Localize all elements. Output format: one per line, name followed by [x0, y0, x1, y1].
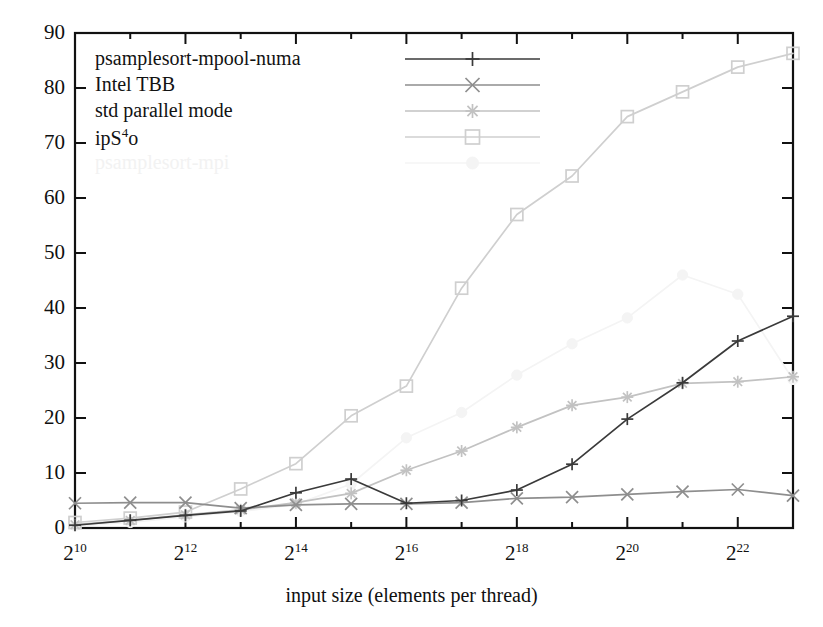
- y-tick-label: 70: [44, 132, 65, 153]
- y-tick-label: 10: [44, 462, 65, 483]
- data-point-marker: [511, 421, 523, 433]
- data-point-marker: [457, 407, 467, 417]
- y-tick-label: 60: [44, 187, 65, 208]
- data-point-marker: [345, 487, 357, 499]
- data-point-marker: [466, 104, 480, 118]
- legend-label-3: ipS4o: [95, 126, 138, 148]
- data-point-marker: [621, 391, 633, 403]
- data-point-marker: [467, 157, 479, 169]
- x-tick-label: 220: [587, 541, 667, 564]
- data-point-marker: [456, 495, 468, 507]
- y-tick-label: 0: [55, 517, 66, 538]
- data-point-marker: [290, 487, 302, 499]
- legend-key-4: [405, 157, 540, 169]
- legend-label-2: std parallel mode: [95, 100, 233, 120]
- y-tick-label: 90: [44, 22, 65, 43]
- legend-key-0: [405, 52, 540, 66]
- x-tick-label: 214: [256, 541, 336, 564]
- data-point-marker: [732, 376, 744, 388]
- y-tick-label: 20: [44, 407, 65, 428]
- x-tick-label: 210: [35, 541, 115, 564]
- legend-label-4: psamplesort-mpi: [95, 152, 229, 172]
- data-point-marker: [466, 52, 480, 66]
- series-intel-tbb: [69, 484, 799, 515]
- data-point-marker: [787, 371, 799, 383]
- legend-label-0: psamplesort-mpool-numa: [95, 48, 301, 68]
- x-tick-label: 222: [698, 541, 778, 564]
- data-point-marker: [512, 370, 522, 380]
- series-line: [75, 53, 793, 522]
- legend-key-2: [405, 104, 540, 118]
- data-point-marker: [733, 289, 743, 299]
- data-point-marker: [622, 313, 632, 323]
- x-tick-label: 218: [477, 541, 557, 564]
- y-tick-label: 30: [44, 352, 65, 373]
- legend-label-1: Intel TBB: [95, 74, 175, 94]
- series-std-parallel-mode: [69, 371, 799, 531]
- y-tick-label: 50: [44, 242, 65, 263]
- data-point-marker: [401, 433, 411, 443]
- x-tick-label: 216: [366, 541, 446, 564]
- data-point-marker: [456, 445, 468, 457]
- data-point-marker: [677, 270, 687, 280]
- legend-key-1: [405, 78, 540, 92]
- x-axis-title: input size (elements per thread): [0, 584, 823, 607]
- data-point-marker: [400, 464, 412, 476]
- series-psamplesort-mpool-numa: [69, 310, 799, 531]
- data-point-marker: [787, 310, 799, 322]
- data-point-marker: [567, 339, 577, 349]
- chart-figure: 0102030405060708090210212214216218220222…: [0, 0, 823, 627]
- y-tick-label: 80: [44, 77, 65, 98]
- legend-key-3: [405, 130, 540, 144]
- y-tick-label: 40: [44, 297, 65, 318]
- data-point-marker: [566, 399, 578, 411]
- x-tick-label: 212: [145, 541, 225, 564]
